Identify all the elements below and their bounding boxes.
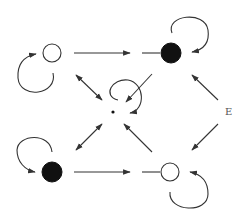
node-center-dot bbox=[111, 110, 114, 113]
self-loop-center bbox=[110, 80, 142, 113]
node-bottom-right-open bbox=[161, 163, 179, 181]
node-bottom-left-filled bbox=[42, 162, 62, 182]
edge-top-left-center bbox=[76, 75, 102, 100]
edge-bottom-right-to-center bbox=[124, 124, 152, 152]
edge-center-bottom-left bbox=[76, 124, 102, 150]
node-top-right-filled bbox=[161, 43, 181, 63]
label-E: E bbox=[225, 106, 232, 117]
edge-E-to-top-right bbox=[192, 75, 218, 100]
state-diagram: E bbox=[0, 0, 251, 222]
node-top-left-open bbox=[43, 44, 61, 62]
edge-E-to-bottom-right bbox=[192, 124, 218, 150]
